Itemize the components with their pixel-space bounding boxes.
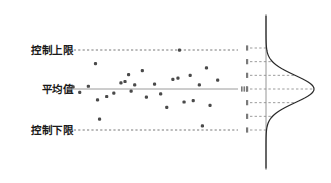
data-point bbox=[127, 73, 130, 76]
sigma-tick-label bbox=[244, 86, 246, 91]
scatter-points bbox=[71, 48, 219, 127]
data-point bbox=[96, 98, 99, 101]
data-point bbox=[192, 99, 195, 102]
data-point bbox=[153, 83, 156, 86]
chart-canvas bbox=[0, 0, 331, 183]
sigma-tick-label bbox=[246, 114, 248, 119]
data-point bbox=[112, 92, 115, 95]
control-chart-figure: 控制上限 平均值 控制下限 bbox=[0, 0, 331, 183]
data-point bbox=[159, 92, 162, 95]
data-point bbox=[189, 74, 192, 77]
normal-distribution-curve bbox=[266, 16, 314, 168]
data-point bbox=[71, 85, 74, 88]
data-point bbox=[141, 69, 144, 72]
sigma-tick-marks bbox=[241, 45, 248, 132]
data-point bbox=[130, 89, 133, 92]
data-point bbox=[176, 76, 179, 79]
data-point bbox=[198, 83, 201, 86]
data-point bbox=[105, 95, 108, 98]
sigma-tick-label bbox=[246, 86, 248, 91]
data-point bbox=[98, 117, 101, 120]
data-point bbox=[178, 48, 181, 51]
data-point bbox=[205, 66, 208, 69]
data-point bbox=[145, 96, 148, 99]
data-point bbox=[87, 85, 90, 88]
data-point bbox=[182, 100, 185, 103]
sigma-tick-label bbox=[241, 86, 243, 91]
data-point bbox=[208, 104, 211, 107]
reference-lines bbox=[65, 50, 238, 130]
data-point bbox=[165, 106, 168, 109]
distribution-panel bbox=[241, 14, 314, 170]
sigma-tick-label bbox=[246, 45, 248, 50]
data-point bbox=[78, 91, 81, 94]
data-point bbox=[216, 79, 219, 82]
data-point bbox=[171, 78, 174, 81]
data-point bbox=[133, 83, 136, 86]
sigma-tick-label bbox=[246, 73, 248, 78]
data-point bbox=[201, 124, 204, 127]
sigma-guide-lines bbox=[250, 48, 314, 130]
data-point bbox=[119, 81, 122, 84]
data-point bbox=[94, 62, 97, 65]
sigma-tick-label bbox=[246, 100, 248, 105]
sigma-tick-label bbox=[246, 59, 248, 64]
data-point bbox=[123, 80, 126, 83]
sigma-tick-label bbox=[246, 127, 248, 132]
